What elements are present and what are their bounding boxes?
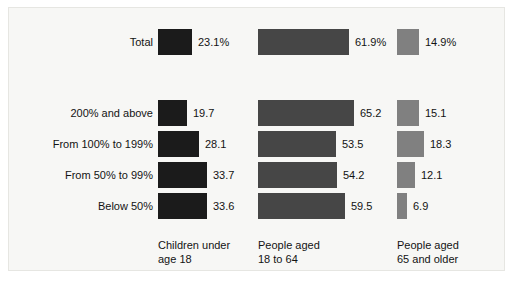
bar-people-aged-18-to-64-from-100-to-199 (258, 131, 336, 157)
bar-people-aged-18-to-64-from-50-to-99 (258, 162, 337, 188)
bar-value-label: 59.5 (345, 193, 372, 219)
bar-value-label: 18.3 (424, 131, 451, 157)
chart-plot-area: Total23.1%61.9%14.9%200% and above19.765… (9, 8, 504, 270)
chart-row-total: Total23.1%61.9%14.9% (9, 29, 504, 55)
bar-value-label: 65.2 (354, 100, 381, 126)
bar-people-aged-65-and-older-below-50 (397, 193, 407, 219)
chart-row-from-50-to-99: From 50% to 99%33.754.212.1 (9, 162, 504, 188)
bar-people-aged-65-and-older-from-50-to-99 (397, 162, 415, 188)
bar-people-aged-65-and-older-from-100-to-199 (397, 131, 424, 157)
category-label: 200% and above (9, 100, 153, 126)
chart-row-200-and-above: 200% and above19.765.215.1 (9, 100, 504, 126)
bar-people-aged-65-and-older-200-and-above (397, 100, 419, 126)
category-label: From 50% to 99% (9, 162, 153, 188)
bar-children-under-age-18-200-and-above (158, 100, 187, 126)
category-label: From 100% to 199% (9, 131, 153, 157)
bar-people-aged-65-and-older-total (397, 29, 419, 55)
bar-children-under-age-18-from-50-to-99 (158, 162, 207, 188)
category-label: Total (9, 29, 153, 55)
bar-value-label: 15.1 (419, 100, 446, 126)
category-label: Below 50% (9, 193, 153, 219)
bar-value-label: 28.1 (199, 131, 226, 157)
bar-value-label: 12.1 (415, 162, 442, 188)
bar-value-label: 6.9 (407, 193, 428, 219)
bar-value-label: 54.2 (337, 162, 364, 188)
bar-children-under-age-18-total (158, 29, 192, 55)
bar-value-label: 19.7 (187, 100, 214, 126)
bar-children-under-age-18-from-100-to-199 (158, 131, 199, 157)
series-header-children-under-age-18: Children under age 18 (158, 239, 230, 266)
chart-row-from-100-to-199: From 100% to 199%28.153.518.3 (9, 131, 504, 157)
bar-value-label: 33.7 (207, 162, 234, 188)
chart-row-below-50: Below 50%33.659.56.9 (9, 193, 504, 219)
bar-value-label: 14.9% (419, 29, 456, 55)
chart-figure: Total23.1%61.9%14.9%200% and above19.765… (8, 7, 505, 271)
bar-people-aged-18-to-64-total (258, 29, 349, 55)
bar-people-aged-18-to-64-200-and-above (258, 100, 354, 126)
bar-value-label: 61.9% (349, 29, 386, 55)
bar-people-aged-18-to-64-below-50 (258, 193, 345, 219)
bar-children-under-age-18-below-50 (158, 193, 207, 219)
bar-value-label: 53.5 (336, 131, 363, 157)
bar-value-label: 33.6 (207, 193, 234, 219)
series-header-people-aged-65-and-older: People aged 65 and older (397, 239, 459, 266)
series-header-people-aged-18-to-64: People aged 18 to 64 (258, 239, 320, 266)
bar-value-label: 23.1% (192, 29, 229, 55)
